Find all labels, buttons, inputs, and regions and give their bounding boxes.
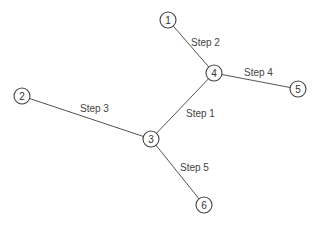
node-label: 5 xyxy=(295,84,301,95)
edge-label: Step 1 xyxy=(186,108,215,119)
node-6: 6 xyxy=(196,197,212,213)
node-2: 2 xyxy=(14,88,30,104)
edge-label: Step 5 xyxy=(180,162,209,173)
edge-label: Step 3 xyxy=(80,103,109,114)
node-label: 1 xyxy=(165,15,171,26)
edge-labels-layer: Step 1Step 2Step 3Step 4Step 5 xyxy=(80,37,273,173)
edge-label: Step 2 xyxy=(191,37,220,48)
node-5: 5 xyxy=(290,81,306,97)
edge-label: Step 4 xyxy=(244,67,273,78)
edges-layer xyxy=(22,20,298,205)
node-4: 4 xyxy=(206,65,222,81)
node-label: 4 xyxy=(211,68,217,79)
node-label: 3 xyxy=(148,134,154,145)
node-label: 2 xyxy=(19,91,25,102)
node-3: 3 xyxy=(143,131,159,147)
node-label: 6 xyxy=(201,200,207,211)
step-graph-diagram: 123456 Step 1Step 2Step 3Step 4Step 5 xyxy=(0,0,318,230)
node-1: 1 xyxy=(160,12,176,28)
edge-3-4 xyxy=(151,73,214,139)
nodes-layer: 123456 xyxy=(14,12,306,213)
